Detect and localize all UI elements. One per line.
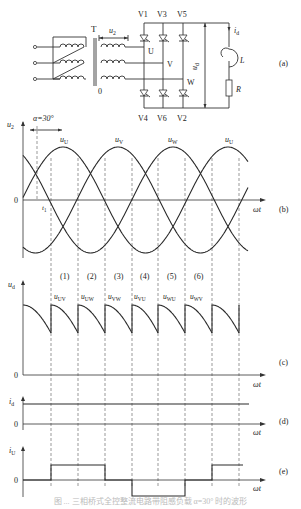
e-ylabel: iU [9,446,16,456]
e-xlabel: ωt [253,484,262,493]
segment-label: uVW [108,292,122,302]
b-ylabel: u2 [7,120,14,130]
c-xlabel: ωt [253,380,262,389]
curve-label: uU [60,135,69,145]
b-zero: 0 [14,196,18,205]
interval-label: (6) [194,272,204,281]
transformer-label: T [91,24,97,34]
thyristor-v5 [179,35,189,42]
thyristor-v2 [179,90,189,97]
panel-tag-e: (e) [279,467,288,476]
c-zero: 0 [14,371,18,380]
interval-label: (1) [60,272,70,281]
ud-label: ud [190,63,200,70]
resistor [226,80,232,96]
panel-tag-d: (d) [279,417,289,426]
segment-label: uWU [163,292,176,302]
lower-thyristor-label: V6 [157,114,167,123]
d-zero: 0 [14,420,18,429]
primary-winding [60,44,84,47]
phase-w-label: W [187,78,195,87]
panel-tag-c: (c) [279,358,288,367]
interval-label: (3) [114,272,124,281]
segment-label: uVU [134,292,146,302]
upper-thyristor-label: V5 [177,10,187,19]
input-terminal [33,77,36,80]
circuit-schematic: T0u2V1V3V5V4V6V2UVWudidLR(a) [33,10,288,123]
input-terminal [33,45,36,48]
upper-thyristor-label: V3 [157,10,167,19]
secondary-winding [101,44,125,47]
d-xlabel: ωt [253,428,262,437]
iu-waveform [23,465,243,496]
curve-label: uU [225,135,234,145]
segment-label: uUW [81,292,95,302]
primary-winding [60,60,84,63]
panel-b-phase-voltages: u20ωt(b)α=30°t1uUuVuWuU [7,114,289,258]
secondary-winding [101,76,125,79]
upper-thyristor-label: V1 [138,10,148,19]
interval-label: (2) [87,272,97,281]
inductor [229,49,238,67]
segment-label: uUV [54,292,66,302]
ud-segment [158,305,185,333]
neutral-label: 0 [98,87,102,96]
secondary-winding [101,60,125,63]
ud-segment [105,305,132,333]
alpha-label: α=30° [33,114,55,123]
rectifier-figure: T0u2V1V3V5V4V6V2UVWudidLR(a)u20ωt(b)α=30… [0,0,301,509]
d-ylabel: id [9,397,14,407]
panel-tag-b: (b) [279,205,289,214]
ud-segment [212,305,239,333]
inductor-label: L [239,56,245,65]
waveform-diagram: T0u2V1V3V5V4V6V2UVWudidLR(a)u20ωt(b)α=30… [0,0,301,509]
primary-winding [60,76,84,79]
b-xlabel: ωt [253,205,262,214]
input-terminal [33,61,36,64]
thyristor-v6 [159,90,169,97]
ud-segment [132,305,158,333]
id-label: id [234,26,239,36]
u2-label: u2 [109,26,116,36]
panel-tag-a: (a) [279,59,288,68]
t1-label: t1 [42,204,47,213]
c-ylabel: ud [8,280,15,290]
figure-caption: 图 ... 三相桥式全控整流电路带阻感负载 α=30° 时的波形 [0,495,301,506]
firing-guides [37,126,239,486]
thyristor-v1 [140,35,150,42]
thyristor-v3 [159,35,169,42]
interval-label: (5) [167,272,177,281]
e-zero: 0 [14,476,18,485]
phase-v-label: V [167,60,173,69]
thyristor-v4 [140,90,150,97]
ud-segment [51,305,78,333]
curve-label: uV [115,135,124,145]
resistor-label: R [235,85,241,94]
ud-segment [23,305,51,333]
lower-thyristor-label: V2 [177,114,187,123]
interval-label: (4) [140,272,150,281]
curve-label: uW [168,135,178,145]
panel-c-output-voltage: ud0ωt(c)(1)(2)(3)(4)(5)(6)uUVuUWuVWuVUuW… [8,272,288,389]
ud-segment [78,305,105,333]
phase-u-label: U [148,47,154,56]
lower-thyristor-label: V4 [138,114,148,123]
ud-segment [185,305,212,333]
segment-label: uWV [190,292,203,302]
